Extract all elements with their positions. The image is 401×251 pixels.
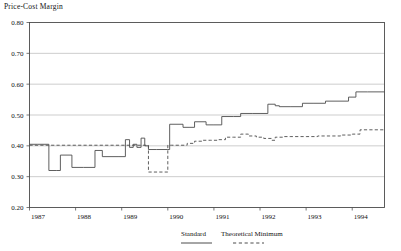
y-tick-label: 0.30	[11, 173, 24, 181]
x-tick-label: 1989	[123, 213, 138, 221]
x-tick-label: 1992	[262, 213, 277, 221]
gridlines-group	[30, 53, 385, 176]
x-tick-label: 1994	[354, 213, 369, 221]
chart-figure: Price-Cost Margin 0.200.300.400.500.600.…	[0, 0, 401, 251]
chart-legend: StandardTheoretical Minimum	[181, 230, 283, 244]
x-axis-ticks-group: 19871988198919901991199219931994	[30, 208, 369, 222]
y-tick-label: 0.40	[11, 142, 24, 150]
x-tick-label: 1988	[77, 213, 92, 221]
x-tick-label: 1993	[308, 213, 323, 221]
y-tick-label: 0.70	[11, 50, 24, 58]
y-tick-label: 0.60	[11, 81, 24, 89]
y-axis-ticks-group: 0.200.300.400.500.600.700.80	[11, 19, 29, 212]
y-tick-label: 0.50	[11, 112, 24, 120]
series-line-theoretical-minimum	[30, 130, 385, 172]
y-tick-label: 0.80	[11, 19, 24, 27]
x-tick-label: 1987	[31, 213, 46, 221]
series-line-standard	[30, 92, 385, 171]
x-tick-label: 1990	[169, 213, 184, 221]
price-cost-margin-line-chart: 0.200.300.400.500.600.700.80 19871988198…	[0, 0, 401, 251]
legend-item-theoretical-minimum-label: Theoretical Minimum	[221, 230, 283, 238]
data-series-group	[30, 92, 385, 172]
legend-item-standard-label: Standard	[181, 230, 206, 238]
x-tick-label: 1991	[215, 213, 230, 221]
y-tick-label: 0.20	[11, 204, 24, 212]
